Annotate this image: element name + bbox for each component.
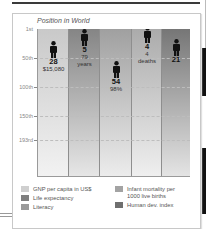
rank-value: 5 <box>69 46 100 54</box>
rank-value: 4 <box>132 43 162 51</box>
legend-swatch <box>21 204 29 210</box>
legend-swatch <box>115 202 123 208</box>
rank-value: 54 <box>100 78 132 86</box>
side-bar-lower <box>202 148 206 214</box>
y-label-1st: 1st <box>13 26 33 32</box>
stat-value: 98% <box>100 86 132 93</box>
legend-swatch <box>21 195 29 201</box>
person-icon <box>172 39 181 56</box>
top-rule <box>12 2 200 4</box>
person-icon <box>143 29 152 43</box>
gridline <box>37 116 190 117</box>
y-label-193rd: 193rd <box>13 137 33 143</box>
rank-value: 21 <box>162 56 190 64</box>
side-bar-upper <box>202 48 206 96</box>
marker-life-expectancy: 5 79 years <box>69 29 100 67</box>
rank-value: 28 <box>38 58 69 66</box>
stat-unit: deaths <box>132 58 162 65</box>
marker-literacy: 54 98% <box>100 61 132 93</box>
legend-swatch <box>21 186 29 192</box>
side-rule <box>205 0 206 48</box>
person-icon <box>112 61 121 78</box>
plot-area: 28 $15,080 5 79 years 54 98% <box>37 29 190 177</box>
chart-title: Position in World <box>37 17 90 24</box>
marker-gnp: 28 $15,080 <box>38 41 69 73</box>
y-label-100th: 100th <box>13 84 33 90</box>
legend-swatch <box>115 186 123 192</box>
stat-unit: years <box>69 61 100 68</box>
position-in-world-chart: Position in World 1st 50th 100th 150th 1… <box>12 13 201 229</box>
marker-human-dev-index: 21 <box>162 39 190 64</box>
person-icon <box>49 41 58 58</box>
stat-value: $15,080 <box>38 66 69 73</box>
legend: GNP per capita in US$ Life expectancy Li… <box>21 182 196 224</box>
marker-infant-mortality: 4 4 deaths <box>132 29 162 64</box>
column-literacy <box>100 29 132 176</box>
y-label-150th: 150th <box>13 113 33 119</box>
gridline <box>37 140 190 141</box>
person-icon <box>80 29 89 46</box>
y-label-50th: 50th <box>13 55 33 61</box>
